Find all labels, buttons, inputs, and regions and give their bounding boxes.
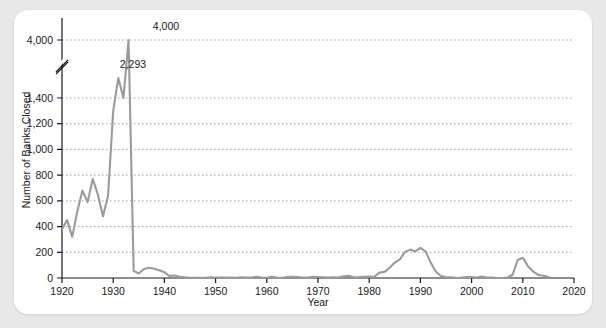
y-tick-label: 4,000 — [27, 34, 53, 46]
y-tick-label: 400 — [35, 220, 53, 232]
x-tick-label: 1930 — [102, 285, 126, 297]
bank-closures-line-chart: 02004006008001,0001,2001,4004,000 192019… — [14, 10, 592, 314]
annotation-peak-2293: 2,293 — [120, 58, 146, 70]
x-tick-label: 2020 — [562, 285, 586, 297]
y-tick-label: 800 — [35, 169, 53, 181]
x-tick-label: 1990 — [409, 285, 433, 297]
x-tick-label: 1940 — [153, 285, 177, 297]
gridlines-group — [62, 40, 574, 252]
x-tick-label: 1950 — [204, 285, 228, 297]
x-axis-title: Year — [307, 296, 329, 308]
y-tick-label: 200 — [35, 246, 53, 258]
chart-card: 02004006008001,0001,2001,4004,000 192019… — [14, 10, 592, 314]
annotation-peak-4000: 4,000 — [153, 20, 179, 32]
y-tick-label: 600 — [35, 194, 53, 206]
data-line-lower — [62, 40, 548, 278]
y-tick-group — [57, 40, 62, 278]
y-tick-label: 0 — [47, 272, 53, 284]
x-tick-label: 1980 — [358, 285, 382, 297]
x-tick-label: 2010 — [511, 285, 535, 297]
x-tick-label: 2000 — [460, 285, 484, 297]
x-tick-label: 1920 — [50, 285, 74, 297]
y-axis-title: Number of Banks Closed — [20, 91, 32, 208]
x-tick-label: 1960 — [255, 285, 279, 297]
screenshot-root: 02004006008001,0001,2001,4004,000 192019… — [0, 0, 606, 328]
